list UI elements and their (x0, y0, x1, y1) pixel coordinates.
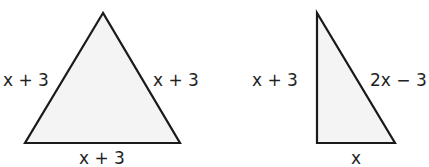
triangle1-right-label: x + 3 (153, 70, 199, 90)
triangles-figure: x + 3 x + 3 x + 3 x + 3 2x − 3 x (0, 0, 429, 167)
triangle2-hypotenuse-label: 2x − 3 (370, 70, 427, 90)
triangle1-bottom-label: x + 3 (79, 148, 125, 167)
triangle1-left-label: x + 3 (3, 70, 49, 90)
triangle2-bottom-label: x (351, 148, 361, 167)
triangle2-left-label: x + 3 (252, 70, 298, 90)
diagram-canvas: x + 3 x + 3 x + 3 x + 3 2x − 3 x (0, 0, 429, 167)
